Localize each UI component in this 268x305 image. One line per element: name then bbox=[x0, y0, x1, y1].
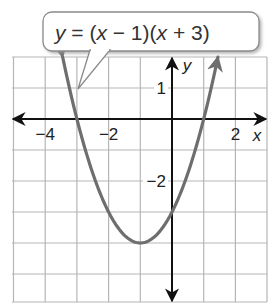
y-axis-label: y bbox=[182, 56, 193, 75]
equation-callout: y = (x − 1)(x + 3) bbox=[43, 12, 259, 89]
x-tick-label: 2 bbox=[231, 125, 240, 144]
equation-part: = ( bbox=[66, 21, 97, 44]
callout-tail bbox=[78, 50, 110, 89]
graph: xy −4−221−2 y = (x − 1)(x + 3) bbox=[0, 0, 268, 305]
y-tick-label: 1 bbox=[157, 79, 166, 98]
equation-part: + 3) bbox=[167, 21, 210, 44]
x-axis-label: x bbox=[252, 126, 262, 145]
y-tick-label: −2 bbox=[147, 172, 166, 191]
equation-part: − 1)( bbox=[107, 21, 157, 44]
axes: xy bbox=[13, 56, 266, 301]
x-tick-label: −4 bbox=[36, 125, 55, 144]
grid bbox=[12, 57, 267, 302]
x-tick-label: −2 bbox=[99, 125, 118, 144]
equation-label: y = (x − 1)(x + 3) bbox=[53, 21, 210, 44]
